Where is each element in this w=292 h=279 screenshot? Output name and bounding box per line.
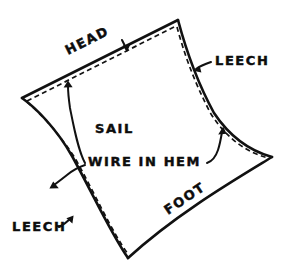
leech-upper-right-label: LEECH [215,53,269,68]
sail-label: SAIL [95,121,134,136]
sail-drawing-canvas: HEAD LEECH SAIL WIRE IN HEM FO [0,0,292,279]
leech-lower-left-label-group: LEECH [12,215,74,234]
wire-in-hem-label: WIRE IN HEM [88,154,201,169]
sail-diagram: HEAD LEECH SAIL WIRE IN HEM FO [0,0,292,279]
leech-upper-right-label-group: LEECH [193,53,269,72]
head-label: HEAD [63,23,112,57]
